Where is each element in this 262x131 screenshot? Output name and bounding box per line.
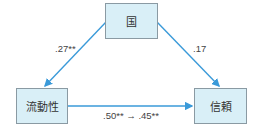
edge-top-to-left bbox=[45, 22, 106, 86]
edge-label-top-right: .17 bbox=[193, 43, 206, 54]
edge-label-left-right: .50** → .45** bbox=[103, 110, 159, 121]
edge-top-to-right bbox=[157, 22, 219, 86]
edge-label-top-left: .27** bbox=[55, 43, 76, 54]
node-mobility: 流動性 bbox=[16, 88, 68, 124]
node-country-label: 国 bbox=[126, 13, 137, 29]
node-trust: 信頼 bbox=[194, 88, 247, 124]
node-trust-label: 信頼 bbox=[210, 98, 232, 114]
node-mobility-label: 流動性 bbox=[26, 98, 59, 114]
node-country: 国 bbox=[105, 3, 158, 39]
